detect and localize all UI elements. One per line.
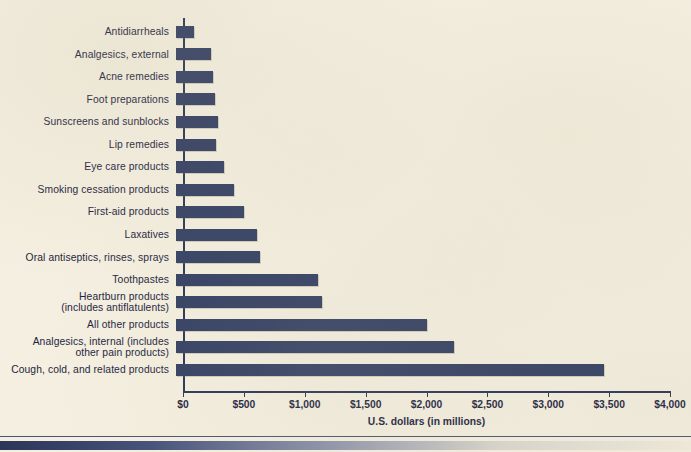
bar-category-label: Laxatives (0, 229, 176, 240)
bar-track (176, 133, 691, 156)
bar (176, 139, 216, 151)
bar-category-label: First-aid products (0, 206, 176, 217)
x-axis-tick (670, 391, 671, 397)
x-axis-tick (487, 391, 488, 397)
x-axis-tick-label: $2,500 (472, 399, 504, 410)
bar-category-label: Eye care products (0, 161, 176, 172)
bar (176, 296, 322, 308)
bar (176, 161, 224, 173)
bar (176, 26, 194, 38)
bar-track (176, 246, 691, 269)
bar-track (176, 291, 691, 314)
bar-row: Smoking cessation products (0, 178, 691, 201)
bar-track (176, 201, 691, 224)
x-axis-tick (609, 391, 610, 397)
bar-track (176, 88, 691, 111)
bar-category-label: Sunscreens and sunblocks (0, 116, 176, 127)
bar-track (176, 111, 691, 134)
x-axis-tick-labels: $0$500$1,000$1,500$2,000$2,500$3,000$3,5… (0, 399, 691, 415)
bar-category-label: Toothpastes (0, 274, 176, 285)
bar-track (176, 21, 691, 44)
x-axis-tick-label: $1,500 (350, 399, 382, 410)
bar-row: Foot preparations (0, 88, 691, 111)
bar-category-label: Antidiarrheals (0, 26, 176, 37)
bar-category-label: Cough, cold, and related products (0, 364, 176, 375)
bar-row: Cough, cold, and related products (0, 359, 691, 382)
bar (176, 319, 427, 331)
bar (176, 364, 604, 376)
bar-row: First-aid products (0, 201, 691, 224)
bar-track (176, 156, 691, 179)
bar-row: Eye care products (0, 156, 691, 179)
x-axis-title: U.S. dollars (in millions) (183, 416, 670, 427)
x-axis-ticks (183, 391, 670, 399)
bar-row: Lip remedies (0, 133, 691, 156)
x-axis-tick-label: $0 (177, 399, 188, 410)
x-axis-tick (305, 391, 306, 397)
bar-category-label: Lip remedies (0, 139, 176, 150)
bar-track (176, 43, 691, 66)
bar-row: Sunscreens and sunblocks (0, 111, 691, 134)
bar-track (176, 178, 691, 201)
bar-category-label: All other products (0, 319, 176, 330)
bar (176, 71, 213, 83)
bar-track (176, 223, 691, 246)
x-axis-tick (183, 391, 184, 397)
bar-category-label: Analgesics, internal (includes other pai… (0, 336, 176, 359)
bar (176, 341, 454, 353)
bar-row: Laxatives (0, 223, 691, 246)
footer-rule (0, 436, 691, 437)
bar-row: Oral antiseptics, rinses, sprays (0, 246, 691, 269)
bar-category-label: Oral antiseptics, rinses, sprays (0, 252, 176, 263)
x-axis-tick-label: $4,000 (654, 399, 686, 410)
bar (176, 184, 234, 196)
footer-accent-bar (0, 441, 691, 450)
bar-row: Toothpastes (0, 269, 691, 292)
bar (176, 251, 260, 263)
bar-category-label: Analgesics, external (0, 49, 176, 60)
bar-category-label: Foot preparations (0, 94, 176, 105)
bar (176, 48, 211, 60)
bar-row: All other products (0, 314, 691, 337)
bar (176, 229, 257, 241)
bar-row: Analgesics, external (0, 43, 691, 66)
bar-row: Acne remedies (0, 66, 691, 89)
bar-category-label: Acne remedies (0, 71, 176, 82)
plot-area: AntidiarrhealsAnalgesics, externalAcne r… (0, 0, 691, 400)
bar-row: Analgesics, internal (includes other pai… (0, 336, 691, 359)
x-axis-tick-label: $500 (232, 399, 255, 410)
bar-row: Antidiarrheals (0, 21, 691, 44)
x-axis-tick-label: $3,500 (593, 399, 625, 410)
bar-row: Heartburn products (includes antiflatule… (0, 291, 691, 314)
bar-category-label: Heartburn products (includes antiflatule… (0, 291, 176, 314)
bar (176, 274, 318, 286)
x-axis-tick-label: $1,000 (289, 399, 321, 410)
x-axis-tick-label: $3,000 (533, 399, 565, 410)
x-axis-tick-label: $2,000 (411, 399, 443, 410)
x-axis-tick (427, 391, 428, 397)
bar-category-label: Smoking cessation products (0, 184, 176, 195)
bar-track (176, 269, 691, 292)
x-axis-tick (244, 391, 245, 397)
bar-track (176, 314, 691, 337)
bar (176, 116, 218, 128)
x-axis-tick (366, 391, 367, 397)
bar (176, 93, 215, 105)
bar-chart-figure: AntidiarrhealsAnalgesics, externalAcne r… (0, 0, 691, 452)
x-axis-tick (548, 391, 549, 397)
bar-track (176, 336, 691, 359)
bar (176, 206, 244, 218)
bar-track (176, 66, 691, 89)
bar-track (176, 359, 691, 382)
